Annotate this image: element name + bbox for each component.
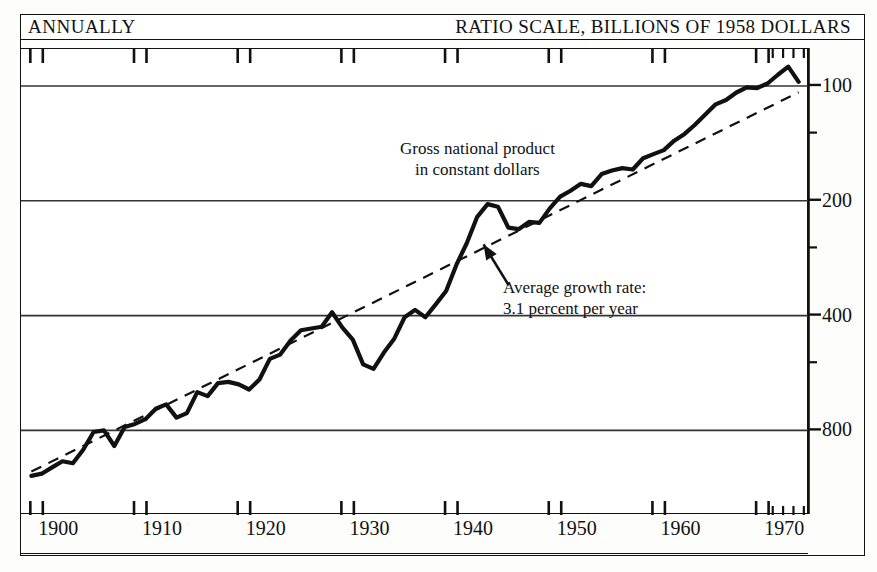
gnp-chart-figure: ANNUALLY RATIO SCALE, BILLIONS OF 1958 D… [0,0,877,572]
x-tick-label-1960: 1960 [660,517,700,540]
growth-rate-line2: 3.1 percent per year [503,298,646,319]
x-tick-label-1920: 1920 [246,517,286,540]
bottom-tick-marks-group [30,501,804,515]
gnp-series-line [31,67,798,476]
x-tick-label-1910: 1910 [142,517,182,540]
x-tick-label-1900: 1900 [38,517,78,540]
x-tick-label-1970: 1970 [764,517,804,540]
header-scale-label: RATIO SCALE, BILLIONS OF 1958 DOLLARS [455,16,851,38]
y-tick-label-200: 200 [822,188,852,211]
series-annotation-line1: Gross national product [400,138,555,159]
y-tick-label-100: 100 [822,73,852,96]
chart-canvas [21,49,809,515]
x-axis-label-strip: 1900 1910 1920 1930 1940 1950 1960 1970 [20,514,808,554]
arrow-head [484,244,497,260]
y-tick-label-400: 400 [822,303,852,326]
growth-rate-annotation: Average growth rate: 3.1 percent per yea… [503,277,646,319]
header-frequency-label: ANNUALLY [28,16,136,38]
plot-area [20,48,808,514]
growth-rate-line1: Average growth rate: [503,277,646,298]
x-tick-label-1950: 1950 [557,517,597,540]
y-axis-scale-column: 800 400 200 100 [808,48,865,514]
series-annotation-line2: in constant dollars [400,159,555,180]
top-tick-marks-group [30,49,804,63]
x-tick-label-1930: 1930 [349,517,389,540]
series-annotation: Gross national product in constant dolla… [400,138,555,180]
y-tick-label-800: 800 [822,418,852,441]
x-tick-label-1940: 1940 [453,517,493,540]
y-axis-ticks [808,48,865,514]
